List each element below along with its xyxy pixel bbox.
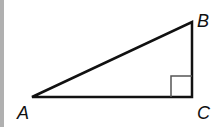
vertex-label-c: C (197, 104, 210, 122)
triangle-figure (0, 0, 220, 127)
vertex-label-b: B (197, 12, 209, 30)
vertex-label-a: A (17, 104, 29, 122)
right-angle-marker (171, 76, 192, 97)
triangle-abc (32, 22, 192, 97)
